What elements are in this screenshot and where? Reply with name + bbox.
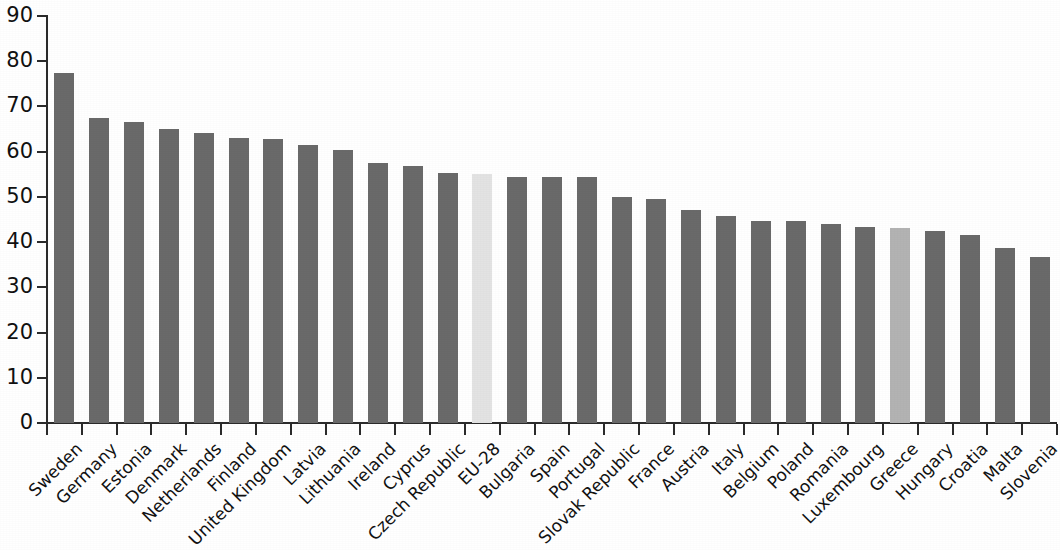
bar-cyprus: [403, 166, 423, 423]
bar-latvia: [298, 145, 318, 423]
x-axis-tick: [603, 424, 605, 435]
y-axis-tick-label: 50: [0, 186, 33, 207]
x-axis-tick: [220, 424, 222, 435]
x-axis-tick: [708, 424, 710, 435]
x-axis-tick: [359, 424, 361, 435]
bar-spain: [542, 177, 562, 423]
x-axis-tick: [1021, 424, 1023, 435]
bar-malta: [995, 248, 1015, 423]
x-axis-tick: [429, 424, 431, 435]
y-axis-tick-label: 80: [0, 50, 33, 71]
x-axis-tick: [290, 424, 292, 435]
bar-lithuania: [333, 150, 353, 423]
bar-ireland: [368, 163, 388, 423]
bar-chart: 0102030405060708090 SwedenGermanyEstonia…: [0, 0, 1060, 550]
x-axis-tick: [673, 424, 675, 435]
y-axis-tick: [37, 241, 46, 243]
x-axis-tick: [743, 424, 745, 435]
bar-hungary: [925, 231, 945, 423]
bar-netherlands: [194, 133, 214, 423]
y-axis-tick: [37, 60, 46, 62]
y-axis-tick-label: 30: [0, 276, 33, 297]
x-axis-tick: [812, 424, 814, 435]
x-axis-tick: [638, 424, 640, 435]
x-axis-tick: [394, 424, 396, 435]
bar-czech-republic: [438, 173, 458, 423]
bar-portugal: [577, 177, 597, 423]
y-axis-tick-label: 40: [0, 231, 33, 252]
x-axis-tick: [1056, 424, 1058, 435]
x-axis-tick: [847, 424, 849, 435]
y-axis-tick: [37, 15, 46, 17]
bar-greece: [890, 228, 910, 423]
y-axis-tick: [37, 151, 46, 153]
x-axis-tick: [917, 424, 919, 435]
bar-eu-28: [472, 174, 492, 423]
bar-estonia: [124, 122, 144, 423]
y-axis-tick: [37, 422, 46, 424]
bar-romania: [821, 224, 841, 423]
y-axis-tick-label: 70: [0, 95, 33, 116]
bar-austria: [681, 210, 701, 423]
bar-croatia: [960, 235, 980, 423]
bar-poland: [786, 221, 806, 423]
bar-denmark: [159, 129, 179, 423]
bar-belgium: [751, 221, 771, 423]
y-axis-tick-label: 0: [0, 412, 33, 433]
y-axis-tick: [37, 105, 46, 107]
bar-finland: [229, 138, 249, 423]
x-axis-tick: [534, 424, 536, 435]
x-axis-tick: [882, 424, 884, 435]
bar-germany: [89, 118, 109, 423]
y-axis-tick: [37, 377, 46, 379]
y-axis-tick-label: 60: [0, 141, 33, 162]
y-axis-tick: [37, 286, 46, 288]
x-axis-tick: [150, 424, 152, 435]
x-axis-tick: [952, 424, 954, 435]
plot-area: [47, 16, 1057, 423]
x-axis-tick: [568, 424, 570, 435]
y-axis-tick: [37, 196, 46, 198]
x-axis-tick: [46, 424, 48, 435]
bar-slovenia: [1030, 257, 1050, 423]
x-axis-tick: [185, 424, 187, 435]
bar-sweden: [54, 73, 74, 423]
y-axis-tick-label: 10: [0, 367, 33, 388]
x-axis-tick: [325, 424, 327, 435]
x-axis-tick: [499, 424, 501, 435]
x-axis-tick: [81, 424, 83, 435]
x-axis-tick: [777, 424, 779, 435]
bar-france: [646, 199, 666, 423]
x-axis-tick: [116, 424, 118, 435]
x-axis-tick: [255, 424, 257, 435]
bar-slovak-republic: [612, 197, 632, 423]
x-axis-tick: [464, 424, 466, 435]
y-axis-tick-label: 20: [0, 322, 33, 343]
x-axis-tick: [986, 424, 988, 435]
bar-luxembourg: [855, 227, 875, 423]
bar-united-kingdom: [263, 139, 283, 423]
bar-italy: [716, 216, 736, 423]
y-axis-tick: [37, 332, 46, 334]
y-axis-tick-label: 90: [0, 5, 33, 26]
bar-bulgaria: [507, 177, 527, 423]
